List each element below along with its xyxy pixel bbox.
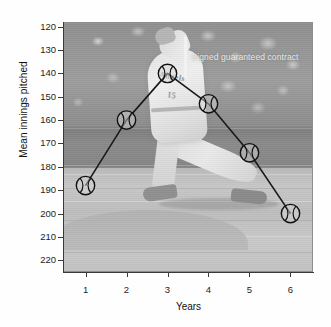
data-series-overlay xyxy=(0,0,331,327)
series-line xyxy=(86,73,291,213)
chart-figure: Angels 15 220210200190180170160150140130… xyxy=(0,0,331,327)
baseball-icon xyxy=(76,176,94,194)
baseball-icon xyxy=(281,204,299,222)
baseball-icon xyxy=(240,144,258,162)
baseball-icon xyxy=(158,64,176,82)
baseball-icon xyxy=(199,95,217,113)
baseball-icon xyxy=(117,111,135,129)
